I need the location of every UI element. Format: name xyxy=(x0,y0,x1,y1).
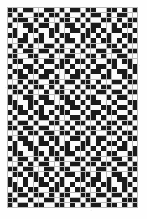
matrix-cell xyxy=(44,85,49,90)
matrix-cell xyxy=(44,90,49,95)
matrix-cell xyxy=(44,136,49,141)
matrix-cell xyxy=(107,95,112,100)
matrix-cell xyxy=(34,100,39,105)
matrix-cell xyxy=(75,59,80,64)
matrix-cell xyxy=(44,193,49,198)
matrix-cell xyxy=(70,74,75,79)
matrix-cell xyxy=(101,74,106,79)
matrix-cell xyxy=(55,74,60,79)
matrix-cell xyxy=(18,69,23,74)
matrix-cell xyxy=(112,90,117,95)
matrix-cell xyxy=(86,64,91,69)
matrix-cell xyxy=(49,141,54,146)
matrix-cell xyxy=(101,54,106,59)
matrix-cell xyxy=(23,187,28,192)
matrix-cell xyxy=(60,13,65,18)
matrix-cell xyxy=(122,38,127,43)
matrix-cell xyxy=(133,115,138,120)
matrix-cell xyxy=(96,44,101,49)
matrix-cell xyxy=(91,146,96,151)
matrix-cell xyxy=(18,49,23,54)
matrix-cell xyxy=(70,18,75,23)
matrix-cell xyxy=(65,8,70,13)
matrix-cell xyxy=(13,44,18,49)
matrix-cell xyxy=(133,33,138,38)
matrix-cell xyxy=(8,18,13,23)
matrix-cell xyxy=(8,172,13,177)
matrix-cell xyxy=(39,141,44,146)
matrix-cell xyxy=(39,49,44,54)
matrix-cell xyxy=(49,151,54,156)
matrix-cell xyxy=(34,193,39,198)
matrix-cell xyxy=(8,33,13,38)
matrix-cell xyxy=(23,157,28,162)
matrix-cell xyxy=(60,110,65,115)
matrix-cell xyxy=(23,23,28,28)
matrix-cell xyxy=(44,33,49,38)
matrix-cell xyxy=(34,172,39,177)
matrix-cell xyxy=(70,177,75,182)
matrix-cell xyxy=(44,105,49,110)
matrix-cell xyxy=(65,54,70,59)
matrix-cell xyxy=(101,8,106,13)
matrix-cell xyxy=(96,13,101,18)
matrix-cell xyxy=(81,54,86,59)
matrix-cell xyxy=(81,146,86,151)
matrix-cell xyxy=(60,95,65,100)
matrix-cell xyxy=(60,136,65,141)
matrix-cell xyxy=(55,69,60,74)
matrix-cell xyxy=(65,59,70,64)
matrix-cell xyxy=(39,33,44,38)
matrix-cell xyxy=(96,146,101,151)
matrix-cell xyxy=(112,172,117,177)
matrix-cell xyxy=(75,74,80,79)
matrix-cell xyxy=(86,90,91,95)
matrix-cell xyxy=(86,59,91,64)
matrix-cell xyxy=(91,157,96,162)
matrix-cell xyxy=(107,80,112,85)
matrix-cell xyxy=(60,18,65,23)
matrix-cell xyxy=(117,121,122,126)
matrix-cell xyxy=(65,49,70,54)
matrix-cell xyxy=(133,105,138,110)
matrix-cell xyxy=(13,49,18,54)
matrix-cell xyxy=(75,146,80,151)
matrix-cell xyxy=(81,110,86,115)
matrix-cell xyxy=(86,80,91,85)
matrix-cell xyxy=(23,38,28,43)
matrix-cell xyxy=(60,151,65,156)
matrix-cell xyxy=(70,44,75,49)
matrix-cell xyxy=(75,115,80,120)
matrix-cell xyxy=(81,38,86,43)
matrix-cell xyxy=(23,121,28,126)
matrix-cell xyxy=(122,33,127,38)
matrix-cell xyxy=(112,80,117,85)
matrix-cell xyxy=(81,177,86,182)
matrix-cell xyxy=(70,33,75,38)
matrix-cell xyxy=(96,187,101,192)
matrix-cell xyxy=(81,33,86,38)
matrix-cell xyxy=(86,131,91,136)
matrix-cell xyxy=(112,44,117,49)
matrix-cell xyxy=(91,110,96,115)
matrix-cell xyxy=(81,151,86,156)
matrix-cell xyxy=(28,146,33,151)
matrix-cell xyxy=(13,23,18,28)
matrix-cell xyxy=(81,80,86,85)
matrix-cell xyxy=(117,90,122,95)
matrix-cell xyxy=(44,110,49,115)
matrix-cell xyxy=(133,162,138,167)
matrix-cell xyxy=(23,13,28,18)
matrix-cell xyxy=(101,13,106,18)
matrix-cell xyxy=(55,49,60,54)
matrix-cell xyxy=(101,203,106,208)
matrix-cell xyxy=(8,167,13,172)
matrix-cell xyxy=(60,49,65,54)
matrix-cell xyxy=(81,115,86,120)
matrix-cell xyxy=(112,18,117,23)
matrix-cell xyxy=(122,100,127,105)
matrix-cell xyxy=(112,49,117,54)
matrix-cell xyxy=(60,64,65,69)
matrix-cell xyxy=(8,69,13,74)
matrix-cell xyxy=(60,141,65,146)
